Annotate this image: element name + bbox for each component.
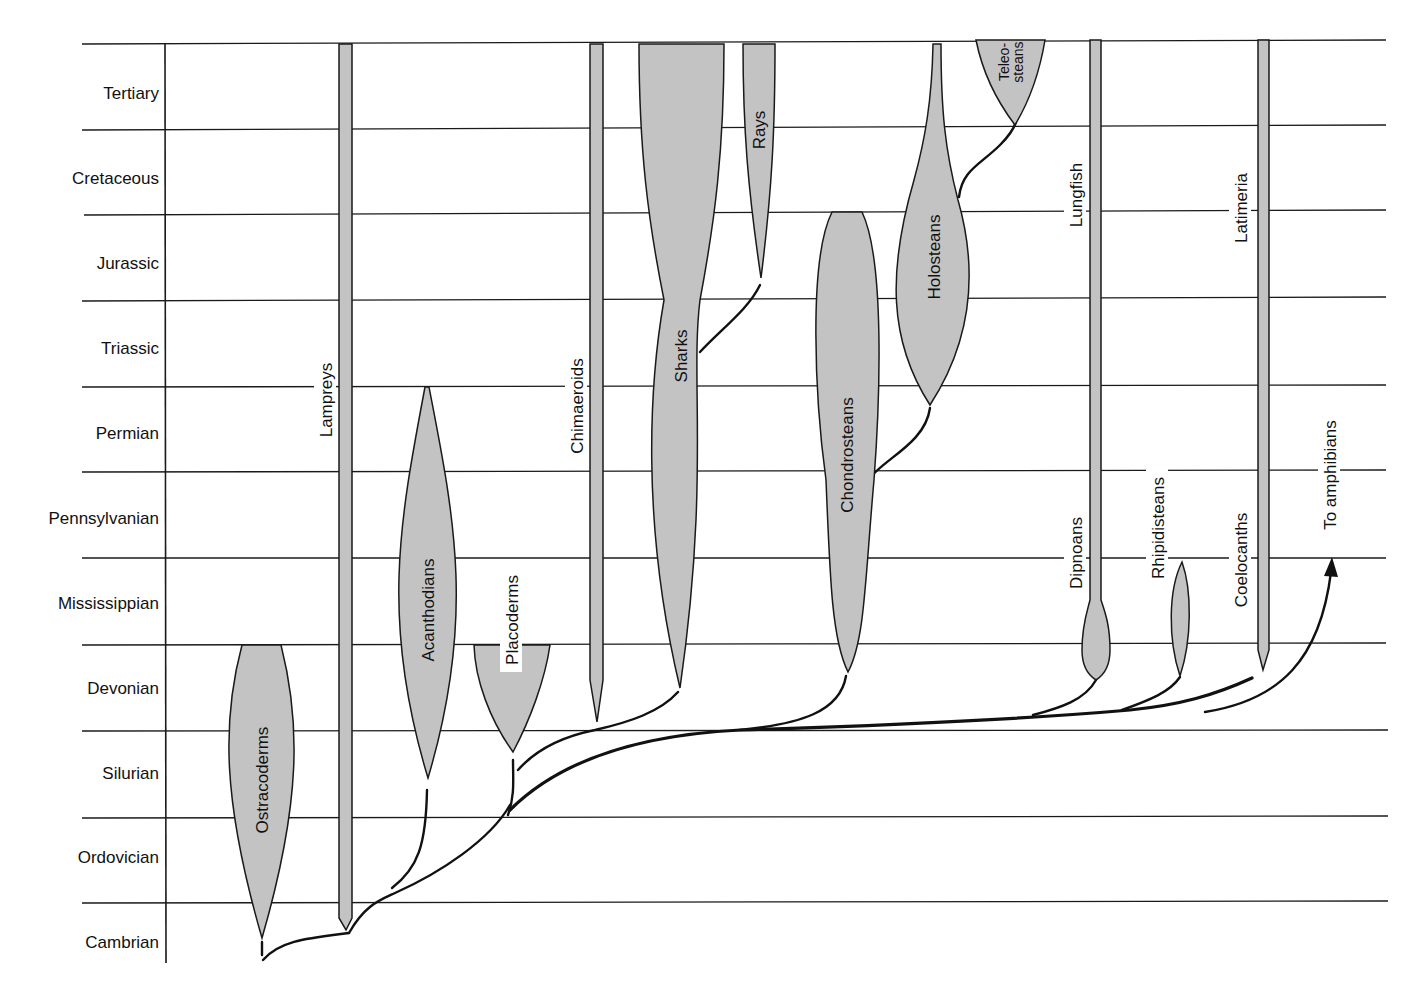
label-sharks: Sharks [672, 330, 691, 383]
label-lampreys: Lampreys [317, 363, 336, 438]
period-label: Devonian [87, 679, 159, 698]
label-holosteans: Holosteans [925, 214, 944, 299]
label-latimeria: Latimeria [1232, 172, 1251, 242]
lampreys-bar [339, 44, 352, 930]
label-dipnoans: Dipnoans [1067, 517, 1086, 589]
label-teleosteans-line2: steans [1010, 41, 1026, 82]
label-placoderms: Placoderms [503, 575, 522, 665]
period-label: Triassic [101, 339, 159, 358]
rhipidisteans-spindle [1171, 562, 1189, 676]
rays-spindle [743, 44, 775, 278]
time-axis [165, 44, 166, 963]
period-label: Silurian [102, 764, 159, 783]
label-chondrosteans: Chondrosteans [838, 397, 857, 512]
label-coelocanths: Coelocanths [1232, 513, 1251, 608]
lungfish-dipnoans-spindle [1082, 40, 1110, 680]
latimeria-coelocanths-bar [1258, 40, 1269, 670]
label-lungfish: Lungfish [1067, 163, 1086, 227]
period-label: Jurassic [97, 254, 160, 273]
period-label: Pennsylvanian [48, 509, 159, 528]
period-label: Ordovician [78, 848, 159, 867]
label-chimaeroids: Chimaeroids [568, 358, 587, 453]
taxon-shapes [229, 40, 1269, 938]
label-acanthodians: Acanthodians [419, 558, 438, 661]
chimaeroids-bar [590, 44, 603, 722]
period-label: Permian [96, 424, 159, 443]
label-to-amphibians: To amphibians [1321, 420, 1340, 530]
label-rays: Rays [750, 111, 769, 150]
period-label: Mississippian [58, 594, 159, 613]
period-label: Cretaceous [72, 169, 159, 188]
period-label: Tertiary [103, 84, 159, 103]
period-label: Cambrian [85, 933, 159, 952]
label-ostracoderms: Ostracoderms [253, 727, 272, 834]
fish-evolution-diagram: Tertiary Cretaceous Jurassic Triassic Pe… [0, 0, 1412, 987]
label-rhipidisteans: Rhipidisteans [1149, 477, 1168, 579]
